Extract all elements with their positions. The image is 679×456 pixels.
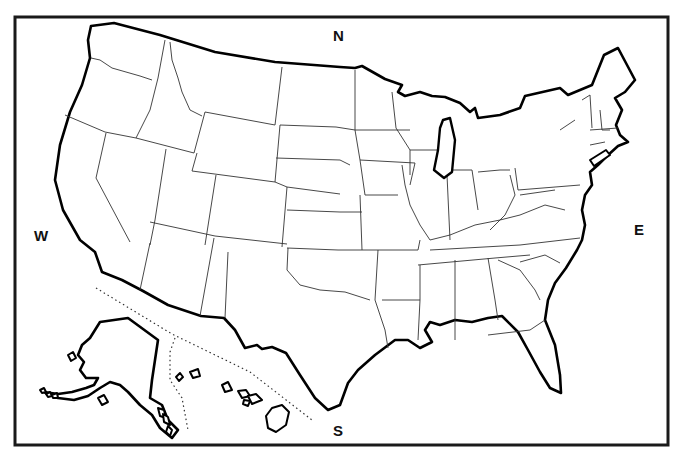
island xyxy=(98,395,108,405)
compass-south-label: S xyxy=(333,423,343,438)
us-outline-map xyxy=(0,0,679,456)
compass-west-label: W xyxy=(34,228,48,243)
compass-east-label: E xyxy=(634,222,644,237)
island xyxy=(40,388,46,393)
compass-north-label: N xyxy=(333,28,344,43)
inset-separator-line xyxy=(170,338,188,430)
island xyxy=(52,393,58,398)
alaska-outline xyxy=(44,318,178,438)
island xyxy=(222,382,232,392)
island xyxy=(46,392,52,397)
hawaii-islands xyxy=(176,369,262,406)
island xyxy=(190,369,200,378)
island xyxy=(68,352,76,361)
island xyxy=(176,373,183,381)
hawaii-big-island xyxy=(266,405,289,432)
island xyxy=(243,400,250,406)
